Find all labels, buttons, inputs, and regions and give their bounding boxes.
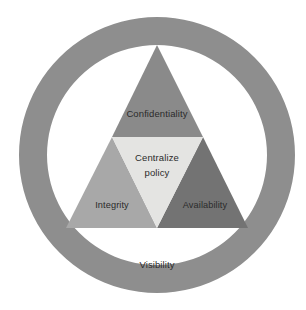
diagram-canvas: Confidentiality Centralize policy Integr… — [0, 0, 306, 310]
label-integrity: Integrity — [95, 200, 129, 210]
segment-confidentiality-shape — [112, 45, 203, 137]
label-visibility: Visibility — [139, 259, 174, 270]
label-centralize-policy-line2: policy — [145, 167, 170, 178]
security-triad-diagram: Confidentiality Centralize policy Integr… — [0, 0, 306, 310]
label-centralize-policy-line1: Centralize — [135, 152, 179, 163]
label-confidentiality: Confidentiality — [126, 108, 187, 119]
label-availability: Availability — [183, 200, 228, 210]
